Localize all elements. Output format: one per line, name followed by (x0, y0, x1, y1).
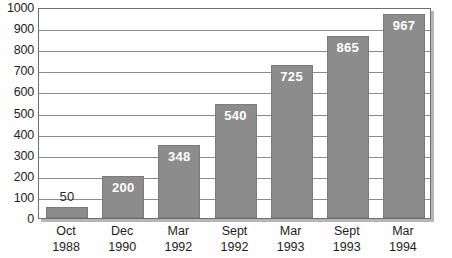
bar[interactable] (46, 207, 88, 218)
bar-slot: 348 (158, 9, 200, 218)
bar[interactable] (327, 36, 369, 219)
bar-chart: 01002003004005006007008009001000 5020034… (0, 0, 452, 258)
x-axis: Oct1988Dec1990Mar1992Sept1992Mar1993Sept… (38, 224, 431, 258)
y-axis-tick-label: 700 (0, 65, 34, 78)
x-tick-month: Dec (94, 224, 150, 240)
bar-value-label: 540 (215, 109, 257, 122)
x-tick-month: Mar (150, 224, 206, 240)
y-axis-tick-label: 400 (0, 128, 34, 141)
y-axis-tick-label: 600 (0, 86, 34, 99)
bar[interactable] (271, 65, 313, 218)
bar-slot: 50 (46, 9, 88, 218)
x-tick-year: 1992 (206, 240, 262, 256)
y-axis-tick-label: 500 (0, 107, 34, 120)
plot-area: 50200348540725865967 (38, 8, 431, 219)
x-axis-tick-label: Mar1994 (375, 224, 431, 255)
x-axis-tick-label: Dec1990 (94, 224, 150, 255)
y-axis-tick-label: 200 (0, 171, 34, 184)
y-axis-tick-label: 800 (0, 44, 34, 57)
bar-slot: 725 (271, 9, 313, 218)
x-tick-month: Mar (263, 224, 319, 240)
bar-value-label: 967 (383, 19, 425, 32)
x-tick-month: Sept (206, 224, 262, 240)
bar-value-label: 200 (102, 181, 144, 194)
x-tick-year: 1990 (94, 240, 150, 256)
bar-series: 50200348540725865967 (39, 9, 430, 218)
x-axis-tick-label: Mar1992 (150, 224, 206, 255)
x-tick-year: 1992 (150, 240, 206, 256)
bar-slot: 200 (102, 9, 144, 218)
y-axis: 01002003004005006007008009001000 (0, 8, 34, 219)
bar-value-label: 50 (38, 190, 96, 203)
y-axis-tick-label: 1000 (0, 2, 34, 15)
x-tick-month: Sept (319, 224, 375, 240)
y-axis-tick-label: 900 (0, 23, 34, 36)
y-axis-tick-label: 100 (0, 192, 34, 205)
x-tick-year: 1993 (319, 240, 375, 256)
bar-slot: 967 (383, 9, 425, 218)
x-tick-year: 1994 (375, 240, 431, 256)
x-tick-year: 1993 (263, 240, 319, 256)
y-axis-tick-label: 300 (0, 149, 34, 162)
bar-slot: 865 (327, 9, 369, 218)
x-axis-tick-label: Mar1993 (263, 224, 319, 255)
bar-slot: 540 (215, 9, 257, 218)
x-axis-tick-label: Sept1992 (206, 224, 262, 255)
bar-value-label: 725 (271, 70, 313, 83)
x-tick-month: Mar (375, 224, 431, 240)
bar-value-label: 865 (327, 41, 369, 54)
x-axis-tick-label: Sept1993 (319, 224, 375, 255)
bar-value-label: 348 (158, 150, 200, 163)
bar[interactable] (383, 14, 425, 218)
x-tick-month: Oct (38, 224, 94, 240)
x-axis-tick-label: Oct1988 (38, 224, 94, 255)
y-axis-tick-label: 0 (0, 213, 34, 226)
x-tick-year: 1988 (38, 240, 94, 256)
